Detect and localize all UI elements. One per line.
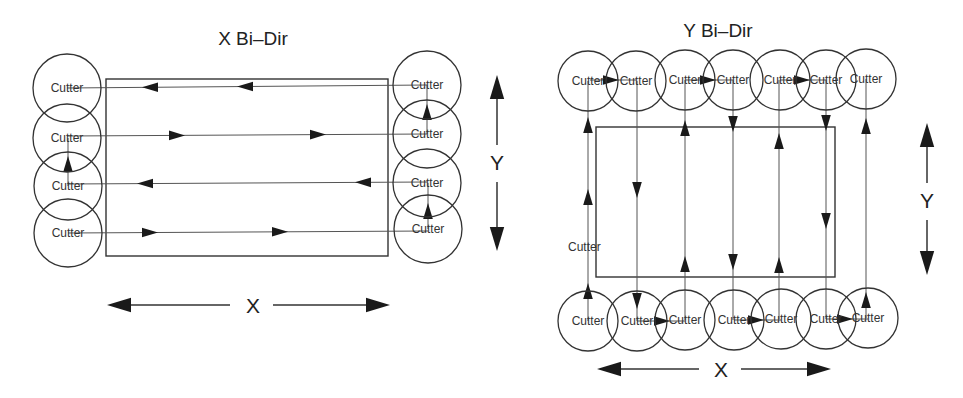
- cutter-label: Cutter: [718, 313, 751, 327]
- arrow-up-icon: [583, 117, 593, 133]
- x-bidir-title: X Bi–Dir: [218, 28, 288, 49]
- arrow-up-icon: [490, 75, 504, 99]
- arrow-up-icon: [861, 292, 871, 308]
- stock-rectangle: [596, 127, 835, 277]
- cutter-label: Cutter: [669, 73, 702, 87]
- cutter-positions: CutterCutterCutterCutterCutterCutterCutt…: [558, 49, 898, 351]
- axis-indicators: XY: [597, 123, 934, 381]
- y-axis-label: Y: [490, 151, 504, 174]
- stock-rectangle: [106, 79, 388, 256]
- x-axis-label: X: [714, 358, 728, 381]
- arrow-right-icon: [366, 298, 390, 312]
- arrow-up-icon: [774, 133, 784, 149]
- cutter-label: Cutter: [852, 311, 885, 325]
- arrow-left-icon: [107, 298, 131, 312]
- cutter-label: Cutter: [572, 74, 605, 88]
- arrow-down-icon: [728, 254, 738, 270]
- arrow-right-icon: [169, 131, 185, 141]
- arrow-up-icon: [422, 104, 432, 120]
- arrow-left-icon: [355, 178, 371, 188]
- cutter-label: Cutter: [810, 73, 843, 87]
- toolpath-pass: [68, 182, 427, 184]
- toolpath-passes: [63, 82, 433, 238]
- toolpath-pass: [67, 134, 427, 136]
- cutter-label: Cutter: [621, 314, 654, 328]
- cutter-label: Cutter: [850, 72, 883, 86]
- cutter-label: Cutter: [51, 81, 84, 95]
- cutter-label: Cutter: [765, 312, 798, 326]
- cutter-label: Cutter: [411, 127, 444, 141]
- cutter-label: Cutter: [620, 74, 653, 88]
- y-axis-label: Y: [920, 189, 934, 212]
- arrow-down-icon: [632, 182, 642, 198]
- y-bidir-title: Y Bi–Dir: [683, 20, 753, 41]
- arrow-right-icon: [142, 228, 158, 238]
- arrow-right-icon: [807, 362, 831, 376]
- arrow-right-icon: [272, 227, 288, 237]
- cutter-label: Cutter: [764, 73, 797, 87]
- arrow-up-icon: [774, 257, 784, 273]
- cutter-label: Cutter: [412, 222, 445, 236]
- arrow-down-icon: [728, 116, 738, 132]
- arrow-right-icon: [310, 130, 326, 140]
- cutter-label: Cutter: [411, 176, 444, 190]
- arrow-down-icon: [821, 115, 831, 131]
- x-bidir-diagram: X Bi–Dir CutterCutterCutterCutterCutterC…: [33, 28, 504, 317]
- arrow-up-icon: [63, 156, 73, 172]
- arrow-down-icon: [490, 227, 504, 251]
- arrow-left-icon: [237, 82, 253, 92]
- cutter-label: Cutter: [51, 131, 84, 145]
- toolpath-passes: [583, 75, 871, 326]
- arrow-down-icon: [821, 213, 831, 229]
- x-axis-label: X: [246, 294, 260, 317]
- cutter-label: Cutter: [669, 313, 702, 327]
- cutter-label: Cutter: [568, 240, 601, 254]
- arrow-left-icon: [137, 179, 153, 189]
- cutter-label: Cutter: [52, 226, 85, 240]
- axis-indicators: XY: [107, 75, 504, 317]
- cutter-label: Cutter: [572, 314, 605, 328]
- cutter-label: Cutter: [717, 73, 750, 87]
- cutter-label: Cutter: [411, 78, 444, 92]
- arrow-up-icon: [680, 120, 690, 136]
- arrow-down-icon: [632, 293, 642, 309]
- cutter-toolpath-diagram: X Bi–Dir CutterCutterCutterCutterCutterC…: [0, 0, 963, 398]
- cutter-label: Cutter: [52, 179, 85, 193]
- arrow-left-icon: [597, 362, 621, 376]
- arrow-up-icon: [920, 123, 934, 147]
- y-bidir-diagram: Y Bi–Dir CutterCutterCutterCutterCutterC…: [558, 20, 934, 381]
- arrow-up-icon: [680, 256, 690, 272]
- toolpath-pass: [68, 231, 428, 233]
- arrow-down-icon: [920, 251, 934, 275]
- arrow-up-icon: [861, 118, 871, 134]
- arrow-up-icon: [583, 189, 593, 205]
- arrow-left-icon: [142, 83, 158, 93]
